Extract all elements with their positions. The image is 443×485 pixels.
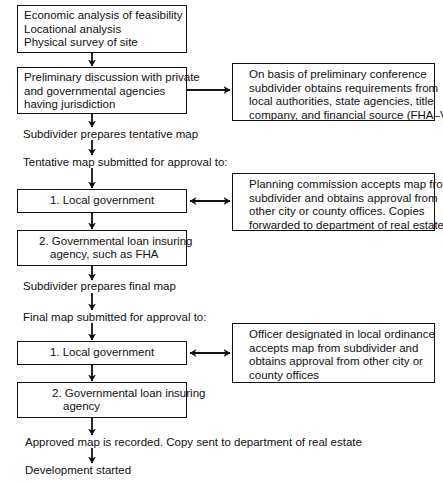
note-text: Officer designated in local ordinance [249,328,424,342]
tentative-agency-box: 2. Governmental loan insuring agency, su… [17,230,187,266]
box-text: 1. Local government [50,194,154,208]
tentative-local-government-box: 1. Local government [17,189,187,213]
final-submit-label: Final map submitted for approval to: [23,311,206,324]
box-text: Locational analysis [24,23,180,37]
final-local-government-box: 1. Local government [17,341,187,365]
note-text: other city or county offices. Copies [249,205,424,219]
tentative-local-note-box: Planning commission accepts map from sub… [232,173,435,231]
note-text: obtains approval from other city or [249,355,424,369]
tentative-submit-label: Tentative map submitted for approval to: [23,156,228,169]
note-text: county offices [249,369,424,383]
preliminary-note-box: On basis of preliminary conference subdi… [232,63,435,121]
note-text: On basis of preliminary conference [249,68,424,82]
box-text: agency [63,400,186,413]
note-text: company, and financial source (FHA–VA) [249,109,424,123]
box-text: and governmental agencies [24,85,180,99]
final-agency-box: 2. Governmental loan insuring agency [17,382,187,418]
note-text: local authorities, state agencies, title [249,95,424,109]
note-text: subdivider obtains requirements from [249,82,424,96]
box-text: Preliminary discussion with private [24,71,180,85]
box-text: Economic analysis of feasibility [24,9,180,23]
started-label: Development started [25,464,131,477]
note-text: accepts map from subdivider and [249,342,424,356]
recorded-label: Approved map is recorded. Copy sent to d… [25,436,362,449]
note-text: Planning commission accepts map from [249,178,424,192]
feasibility-box: Economic analysis of feasibility Locatio… [17,5,187,53]
box-text: agency, such as FHA [50,248,186,261]
final-local-note-box: Officer designated in local ordinance ac… [232,323,435,383]
tentative-prepare-label: Subdivider prepares tentative map [23,128,198,141]
preliminary-discussion-box: Preliminary discussion with private and … [17,67,187,114]
box-text: 2. Governmental loan insuring [52,387,186,400]
box-text: Physical survey of site [24,36,180,50]
box-text: having jurisdiction [24,98,180,112]
final-prepare-label: Subdivider prepares final map [23,280,176,293]
note-text: subdivider and obtains approval from [249,192,424,206]
box-text: 2. Governmental loan insuring [39,235,186,248]
note-text: forwarded to department of real estate [249,219,424,233]
box-text: 1. Local government [50,346,154,360]
